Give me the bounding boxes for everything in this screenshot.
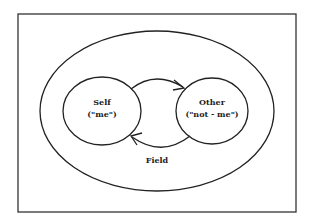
self-other-field-diagram: Self ("me") Other ("not - me") Field [0,0,312,222]
field-label: Field [146,155,169,165]
other-title: Other [199,97,226,107]
arrow-other-to-self [131,133,190,147]
self-subtitle: ("me") [87,109,117,119]
self-node: Self ("me") [63,77,141,145]
bottom-arc [132,136,190,147]
other-node: Other ("not - me") [176,78,248,144]
field-ellipse [40,31,274,191]
other-subtitle: ("not - me") [185,109,238,119]
self-title: Self [93,97,111,107]
arrow-self-to-other [131,79,184,90]
frame-border [18,14,296,212]
arrowhead-left-icon [131,133,142,145]
